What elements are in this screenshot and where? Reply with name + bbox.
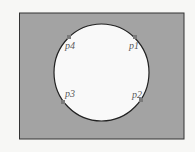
point-p4-marker <box>67 35 71 39</box>
point-p3-marker <box>61 100 65 104</box>
diagram-canvas: p1 p2 p3 p4 <box>0 0 195 152</box>
point-p1-label: p1 <box>128 40 139 51</box>
point-p2-label: p2 <box>131 89 142 100</box>
point-p3-label: p3 <box>64 88 75 99</box>
point-p1-marker <box>133 35 137 39</box>
point-p4-label: p4 <box>64 40 75 51</box>
